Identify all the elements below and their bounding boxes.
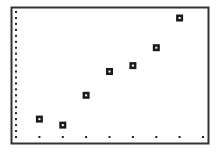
box-marker-point [106,68,113,75]
y-tick-dot [15,82,17,84]
y-tick-dot [15,71,17,73]
box-marker-point [83,92,90,99]
box-marker-point [176,15,183,22]
y-tick-dot [15,130,17,132]
y-tick-dot [15,53,17,55]
y-tick-dot [15,11,17,13]
y-tick-dot [15,118,17,120]
y-tick-dot [15,77,17,79]
x-tick-dot [202,136,204,138]
y-tick-dot [15,112,17,114]
y-tick-dot [15,41,17,43]
scatter-plot-screen [0,0,217,152]
y-tick-dot [15,88,17,90]
x-tick-dot [109,136,111,138]
x-tick-dot [179,136,181,138]
plot-frame [12,8,209,144]
y-tick-dot [15,47,17,49]
box-marker-point [59,122,66,129]
y-tick-dot [15,59,17,61]
y-tick-dot [15,94,17,96]
y-tick-dot [15,100,17,102]
y-tick-dot [15,23,17,25]
y-tick-dot [15,65,17,67]
y-tick-dot [15,136,17,138]
x-tick-dot [38,136,40,138]
x-tick-dot [132,136,134,138]
y-tick-dot [15,35,17,37]
x-tick-dot [85,136,87,138]
y-tick-dot [15,29,17,31]
box-marker-point [36,116,43,123]
x-tick-dot [62,136,64,138]
y-tick-dot [15,106,17,108]
x-tick-dot [155,136,157,138]
box-marker-point [129,62,136,69]
box-marker-point [153,44,160,51]
y-tick-dot [15,124,17,126]
y-tick-dot [15,17,17,19]
